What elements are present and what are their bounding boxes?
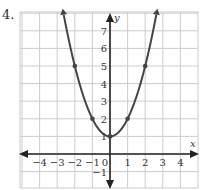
x-tick-label: 3 xyxy=(160,157,166,168)
x-tick-label: 2 xyxy=(142,157,148,168)
y-axis-up-arrow-icon xyxy=(106,13,114,22)
data-point xyxy=(143,64,148,69)
y-tick-label: 6 xyxy=(101,43,107,54)
parabola-chart: xy−4−3−2−101234−11234567 xyxy=(0,0,201,190)
y-tick-label: 3 xyxy=(101,96,107,107)
x-tick-label: −3 xyxy=(50,157,65,168)
y-axis-label: y xyxy=(113,12,120,23)
y-tick-label: −1 xyxy=(92,167,107,178)
x-tick-label: 1 xyxy=(124,157,130,168)
x-axis-label: x xyxy=(190,138,196,149)
x-tick-label: −4 xyxy=(32,157,47,168)
y-tick-label: 4 xyxy=(101,79,107,90)
data-point xyxy=(125,117,130,122)
data-point xyxy=(73,64,78,69)
data-point xyxy=(90,117,95,122)
x-tick-label: −2 xyxy=(67,157,82,168)
data-point xyxy=(108,134,113,139)
y-tick-label: 7 xyxy=(101,26,107,37)
y-tick-label: 2 xyxy=(101,114,107,125)
y-tick-label: 5 xyxy=(101,61,107,72)
x-tick-label: 4 xyxy=(177,157,183,168)
